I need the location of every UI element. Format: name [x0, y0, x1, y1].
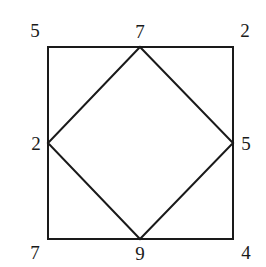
label-corner-top-right: 2 — [240, 20, 250, 41]
label-mid-right: 5 — [241, 133, 251, 154]
label-mid-left: 2 — [31, 133, 41, 154]
label-corner-top-left: 5 — [30, 20, 40, 41]
label-corner-bottom-right: 4 — [241, 242, 251, 263]
inner-diamond — [48, 47, 233, 239]
label-corner-bottom-left: 7 — [30, 242, 40, 263]
label-mid-bottom: 9 — [135, 243, 145, 264]
square-diamond-diagram: 5 2 7 4 7 9 2 5 — [0, 0, 266, 267]
label-mid-top: 7 — [135, 21, 145, 42]
outer-square — [48, 47, 233, 239]
